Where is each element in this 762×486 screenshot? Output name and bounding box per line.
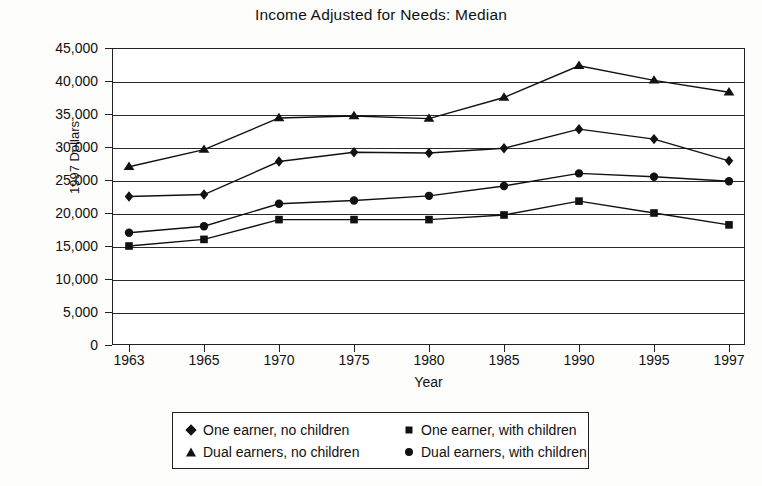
y-tick-mark: [105, 114, 112, 115]
data-point-marker: [575, 169, 583, 177]
y-tick-mark: [105, 81, 112, 82]
data-point-marker: [500, 182, 508, 190]
chart-legend: One earner, no childrenOne earner, with …: [172, 412, 589, 469]
y-tick-label: 35,000: [0, 106, 98, 122]
y-tick-label: 5,000: [0, 304, 98, 320]
x-tick-mark: [504, 345, 505, 352]
data-point-marker: [350, 147, 359, 157]
data-point-marker: [500, 211, 508, 219]
x-tick-mark: [729, 345, 730, 352]
x-tick-mark: [279, 345, 280, 352]
data-point-marker: [200, 236, 208, 244]
series-layer: [112, 48, 745, 345]
legend-label: Dual earners, no children: [203, 444, 359, 460]
data-point-marker: [425, 192, 433, 200]
y-tick-label: 20,000: [0, 205, 98, 221]
data-point-marker: [425, 148, 434, 158]
data-point-marker: [275, 156, 284, 166]
data-point-marker: [425, 216, 433, 224]
y-tick-label: 25,000: [0, 172, 98, 188]
x-tick-label: 1997: [699, 352, 759, 368]
triangle-marker-icon: [183, 445, 198, 460]
x-tick-mark: [579, 345, 580, 352]
y-tick-mark: [105, 48, 112, 49]
data-point-marker: [349, 111, 360, 119]
diamond-marker-icon: [183, 423, 198, 438]
x-tick-label: 1975: [324, 352, 384, 368]
y-tick-label: 40,000: [0, 73, 98, 89]
x-tick-mark: [429, 345, 430, 352]
series-square: [125, 197, 733, 249]
y-tick-mark: [105, 213, 112, 214]
series-circle: [125, 169, 733, 237]
x-tick-label: 1970: [249, 352, 309, 368]
legend-label: Dual earners, with children: [421, 444, 587, 460]
series-line: [129, 129, 729, 196]
y-tick-label: 30,000: [0, 139, 98, 155]
y-tick-label: 45,000: [0, 40, 98, 56]
y-tick-mark: [105, 180, 112, 181]
y-tick-mark: [105, 147, 112, 148]
x-tick-label: 1990: [549, 352, 609, 368]
legend-entry[interactable]: One earner, with children: [401, 422, 600, 438]
y-tick-label: 0: [0, 337, 98, 353]
x-tick-mark: [129, 345, 130, 352]
data-point-marker: [125, 191, 134, 201]
x-tick-mark: [354, 345, 355, 352]
y-tick-label: 15,000: [0, 238, 98, 254]
square-marker-icon: [401, 423, 416, 438]
series-line: [129, 201, 729, 246]
data-point-marker: [125, 229, 133, 237]
data-point-marker: [500, 143, 509, 153]
x-tick-label: 1980: [399, 352, 459, 368]
y-tick-mark: [105, 279, 112, 280]
x-tick-label: 1965: [174, 352, 234, 368]
data-point-marker: [725, 156, 734, 166]
legend-entry[interactable]: One earner, no children: [183, 422, 401, 438]
data-point-marker: [575, 124, 584, 134]
data-point-marker: [200, 189, 209, 199]
data-point-marker: [574, 61, 585, 69]
series-diamond: [125, 124, 734, 202]
data-point-marker: [725, 221, 733, 229]
data-point-marker: [350, 216, 358, 224]
data-point-marker: [275, 200, 283, 208]
legend-entry[interactable]: Dual earners, no children: [183, 444, 401, 460]
y-tick-label: 10,000: [0, 271, 98, 287]
x-tick-label: 1985: [474, 352, 534, 368]
chart-container: Income Adjusted for Needs: Median 1997 D…: [0, 0, 762, 486]
x-tick-mark: [204, 345, 205, 352]
x-tick-label: 1963: [99, 352, 159, 368]
data-point-marker: [350, 196, 358, 204]
data-point-marker: [275, 216, 283, 224]
series-line: [129, 173, 729, 232]
circle-marker-icon: [401, 445, 416, 460]
data-point-marker: [725, 177, 733, 185]
x-axis-title: Year: [112, 374, 745, 390]
data-point-marker: [650, 134, 659, 144]
data-point-marker: [125, 242, 133, 250]
legend-label: One earner, with children: [421, 422, 577, 438]
y-tick-mark: [105, 312, 112, 313]
chart-title: Income Adjusted for Needs: Median: [0, 6, 762, 24]
y-tick-mark: [105, 345, 112, 346]
data-point-marker: [274, 113, 285, 121]
y-tick-mark: [105, 246, 112, 247]
legend-entry[interactable]: Dual earners, with children: [401, 444, 600, 460]
x-tick-mark: [654, 345, 655, 352]
data-point-marker: [650, 209, 658, 217]
data-point-marker: [575, 197, 583, 205]
data-point-marker: [650, 173, 658, 181]
x-tick-label: 1995: [624, 352, 684, 368]
legend-label: One earner, no children: [203, 422, 349, 438]
data-point-marker: [200, 222, 208, 230]
